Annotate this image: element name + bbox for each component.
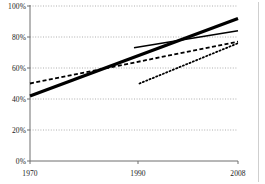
line-chart: 100% 80% 60% 40% 20% 0% 1970 1990 2008 bbox=[0, 0, 265, 184]
gridlines bbox=[30, 6, 238, 130]
y-tick-label-0: 0% bbox=[0, 157, 26, 166]
y-tick-label-60: 60% bbox=[0, 64, 26, 73]
y-tick-label-80: 80% bbox=[0, 33, 26, 42]
x-tick-label-2008: 2008 bbox=[218, 169, 258, 178]
series-thick-solid-line bbox=[30, 18, 238, 96]
plot-area bbox=[0, 0, 265, 184]
x-tick-label-1990: 1990 bbox=[118, 169, 158, 178]
y-tick-label-20: 20% bbox=[0, 126, 26, 135]
series-dashed-line bbox=[30, 42, 238, 84]
y-tick-label-40: 40% bbox=[0, 95, 26, 104]
x-tick-label-1970: 1970 bbox=[10, 169, 50, 178]
y-tick-label-100: 100% bbox=[0, 2, 26, 11]
